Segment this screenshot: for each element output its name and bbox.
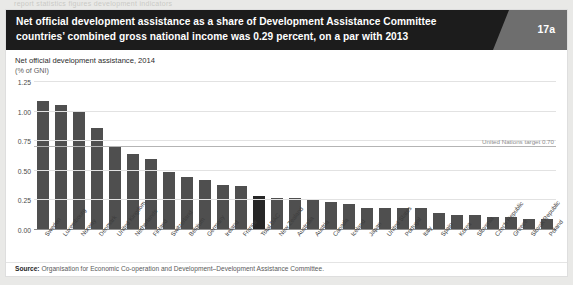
gridline: 1.00 bbox=[34, 111, 556, 112]
bar-cell bbox=[196, 82, 214, 230]
bar bbox=[91, 128, 102, 230]
bar-cell bbox=[160, 82, 178, 230]
bar-cell bbox=[88, 82, 106, 230]
bar-cell bbox=[520, 82, 538, 230]
y-axis-tick-label: 0.00 bbox=[18, 227, 31, 234]
gridline: 0.50 bbox=[34, 170, 556, 171]
figure-number: 17a bbox=[537, 23, 555, 35]
source-text: Organisation for Economic Co-operation a… bbox=[41, 265, 324, 272]
bar-cell bbox=[34, 82, 52, 230]
y-axis-tick-label: 0.75 bbox=[18, 138, 31, 145]
chart-area: Net official development assistance, 201… bbox=[6, 50, 567, 262]
page-bleed-text: report statistics figures development in… bbox=[0, 0, 573, 10]
bar-cell bbox=[430, 82, 448, 230]
bar-cell bbox=[358, 82, 376, 230]
figure-page: report statistics figures development in… bbox=[0, 0, 573, 285]
figure-card: Net official development assistance as a… bbox=[6, 10, 567, 276]
bar bbox=[55, 105, 66, 231]
bar-cell bbox=[250, 82, 268, 230]
page-title: Net official development assistance as a… bbox=[16, 15, 477, 44]
gridline: 1.25 bbox=[34, 81, 556, 82]
un-target-label: United Nations target 0.70 bbox=[482, 138, 554, 145]
figure-footer: Source: Organisation for Economic Co-ope… bbox=[6, 262, 567, 276]
bar-cell bbox=[304, 82, 322, 230]
bar bbox=[37, 101, 48, 230]
un-target-line: United Nations target 0.70 bbox=[34, 146, 556, 147]
figure-number-tab bbox=[493, 10, 567, 50]
figure-header: Net official development assistance as a… bbox=[6, 10, 567, 50]
bar-cell bbox=[448, 82, 466, 230]
bar-cell bbox=[322, 82, 340, 230]
y-axis-tick-label: 1.25 bbox=[18, 79, 31, 86]
source-label: Source: bbox=[15, 265, 40, 272]
bar-cell bbox=[466, 82, 484, 230]
chart-axis-unit: (% of GNI) bbox=[15, 66, 49, 75]
gridline: 0.25 bbox=[34, 199, 556, 200]
bar-cell bbox=[484, 82, 502, 230]
chart-title: Net official development assistance, 201… bbox=[15, 56, 155, 65]
bar-cell bbox=[214, 82, 232, 230]
y-axis-tick-label: 0.25 bbox=[18, 197, 31, 204]
y-axis-tick-label: 1.00 bbox=[18, 108, 31, 115]
bar-cell bbox=[412, 82, 430, 230]
bar-cell bbox=[232, 82, 250, 230]
source-note: Source: Organisation for Economic Co-ope… bbox=[15, 265, 324, 272]
bar-cell bbox=[340, 82, 358, 230]
y-axis-tick-label: 0.50 bbox=[18, 167, 31, 174]
bar-cell bbox=[106, 82, 124, 230]
bar-cell bbox=[268, 82, 286, 230]
bar-cell bbox=[52, 82, 70, 230]
bar-cell bbox=[376, 82, 394, 230]
gridline: 0.75 bbox=[34, 140, 556, 141]
